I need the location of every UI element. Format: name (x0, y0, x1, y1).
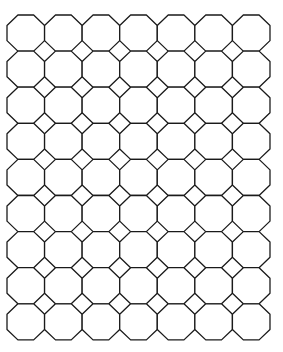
octagon-tile (7, 196, 45, 232)
octagon-tile (195, 123, 233, 159)
octagon-tile (120, 304, 158, 340)
octagon-tile (82, 268, 120, 304)
octagon-tile (120, 196, 158, 232)
octagon-tile (195, 304, 233, 340)
octagon-tile (157, 196, 195, 232)
octagon-tile (232, 196, 270, 232)
octagon-tile (45, 87, 83, 123)
octagon-tile (157, 87, 195, 123)
octagon-tile (7, 268, 45, 304)
octagon-tile (82, 159, 120, 195)
octagon-tile (45, 232, 83, 268)
octagon-tile (195, 159, 233, 195)
octagon-tile (82, 51, 120, 87)
octagon-tile (45, 51, 83, 87)
octagon-tile (232, 15, 270, 51)
octagon-tile (232, 87, 270, 123)
octagon-tile (232, 304, 270, 340)
octagon-tile (45, 123, 83, 159)
octagon-tile (7, 87, 45, 123)
octagon-tile (45, 15, 83, 51)
octagon-tile (45, 304, 83, 340)
octagon-tile (157, 123, 195, 159)
octagon-tile (232, 268, 270, 304)
octagon-square-tiling (0, 0, 283, 352)
octagon-tile (82, 15, 120, 51)
octagon-tile (45, 196, 83, 232)
octagon-tile (157, 51, 195, 87)
octagon-tile (195, 196, 233, 232)
octagon-tile (120, 159, 158, 195)
octagon-tile (120, 232, 158, 268)
octagon-tile (120, 87, 158, 123)
octagon-tile (157, 232, 195, 268)
octagon-tile (157, 304, 195, 340)
octagon-tile (195, 87, 233, 123)
octagon-tile (195, 51, 233, 87)
octagon-tile (7, 304, 45, 340)
octagon-tile (7, 51, 45, 87)
octagon-tile (195, 232, 233, 268)
octagon-tile (120, 15, 158, 51)
octagon-tile (120, 268, 158, 304)
octagon-tile (120, 123, 158, 159)
octagon-tile (157, 15, 195, 51)
octagon-tile (232, 159, 270, 195)
octagon-tile (195, 268, 233, 304)
octagon-tile (45, 268, 83, 304)
octagon-tile (82, 123, 120, 159)
octagon-tile (82, 232, 120, 268)
octagon-tile (82, 304, 120, 340)
octagon-tile (7, 232, 45, 268)
octagon-tile (157, 159, 195, 195)
octagon-tile (7, 123, 45, 159)
octagon-tile (232, 232, 270, 268)
octagon-tile (82, 87, 120, 123)
octagon-tile (82, 196, 120, 232)
octagon-tile (232, 123, 270, 159)
octagon-tile (45, 159, 83, 195)
octagon-tile (7, 159, 45, 195)
octagon-tile (232, 51, 270, 87)
octagon-tile (7, 15, 45, 51)
octagon-tile (157, 268, 195, 304)
octagon-tile (120, 51, 158, 87)
octagon-tile (195, 15, 233, 51)
